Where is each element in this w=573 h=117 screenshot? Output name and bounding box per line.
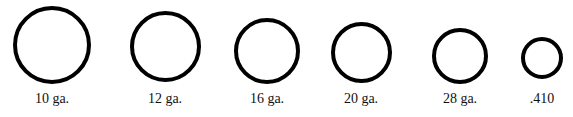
gauge-label-20: 20 ga. [344,91,378,107]
gauge-circle-20 [331,22,392,83]
gauge-label-28: 28 ga. [443,91,477,107]
gauge-label-410: .410 [530,91,555,107]
gauge-circle-28 [432,28,488,84]
gauge-comparison-diagram: 10 ga. 12 ga. 16 ga. 20 ga. 28 ga. .410 [0,0,573,117]
gauge-label-12: 12 ga. [148,91,182,107]
gauge-circle-16 [234,18,300,84]
gauge-circle-10 [13,6,91,84]
gauge-circle-12 [130,11,201,82]
gauge-label-10: 10 ga. [35,91,69,107]
gauge-circle-410 [521,37,563,79]
gauge-label-16: 16 ga. [250,91,284,107]
